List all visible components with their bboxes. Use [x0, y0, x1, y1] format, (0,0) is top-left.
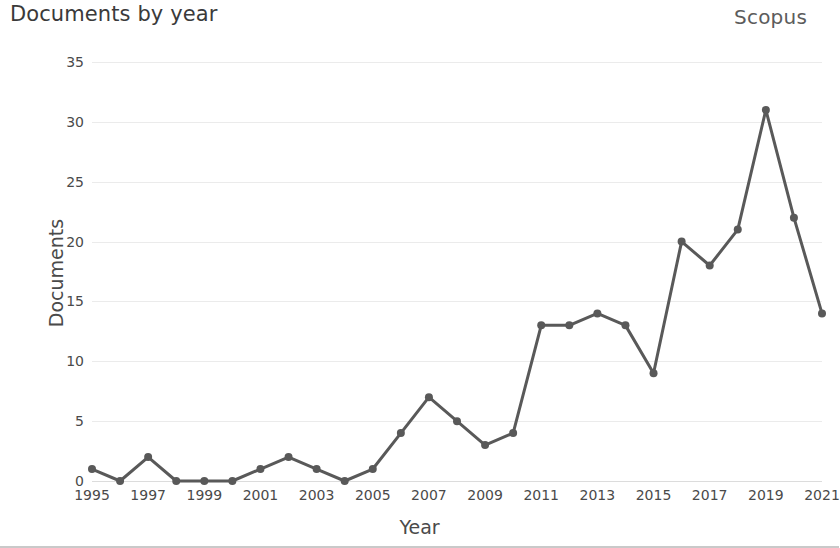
data-point-marker[interactable] — [425, 393, 433, 401]
data-point-marker[interactable] — [397, 429, 405, 437]
x-tick-label: 2021 — [804, 487, 840, 503]
data-point-marker[interactable] — [621, 321, 629, 329]
data-point-marker[interactable] — [678, 238, 686, 246]
y-tick-label: 15 — [66, 293, 84, 309]
data-point-marker[interactable] — [509, 429, 517, 437]
data-point-marker[interactable] — [593, 309, 601, 317]
data-point-marker[interactable] — [369, 465, 377, 473]
documents-line-series — [92, 62, 822, 481]
page-title: Documents by year — [10, 2, 217, 26]
data-point-marker[interactable] — [88, 465, 96, 473]
x-tick-label: 1997 — [130, 487, 166, 503]
data-point-marker[interactable] — [790, 214, 798, 222]
data-point-marker[interactable] — [481, 441, 489, 449]
x-tick-label: 2011 — [523, 487, 559, 503]
data-point-marker[interactable] — [762, 106, 770, 114]
data-point-marker[interactable] — [313, 465, 321, 473]
series-line — [92, 110, 822, 481]
x-tick-label: 1995 — [74, 487, 110, 503]
y-tick-label: 10 — [66, 353, 84, 369]
y-tick-label: 20 — [66, 234, 84, 250]
scopus-brand-label: Scopus — [734, 5, 807, 29]
y-tick-label: 35 — [66, 54, 84, 70]
x-axis-tick-labels: 1995199719992001200320052007200920112013… — [92, 487, 822, 511]
data-point-marker[interactable] — [453, 417, 461, 425]
data-point-marker[interactable] — [200, 477, 208, 485]
plot-area — [92, 62, 822, 481]
data-point-marker[interactable] — [565, 321, 573, 329]
data-point-marker[interactable] — [818, 309, 826, 317]
data-point-marker[interactable] — [285, 453, 293, 461]
y-tick-label: 5 — [75, 413, 84, 429]
x-tick-label: 1999 — [186, 487, 222, 503]
x-tick-label: 2005 — [355, 487, 391, 503]
x-tick-label: 2007 — [411, 487, 447, 503]
data-point-marker[interactable] — [228, 477, 236, 485]
y-axis-tick-labels: 05101520253035 — [52, 62, 84, 481]
x-tick-label: 2015 — [636, 487, 672, 503]
data-point-marker[interactable] — [734, 226, 742, 234]
x-axis-title: Year — [0, 516, 839, 538]
x-tick-label: 2017 — [692, 487, 728, 503]
x-tick-label: 2003 — [299, 487, 335, 503]
data-point-marker[interactable] — [116, 477, 124, 485]
data-point-marker[interactable] — [650, 369, 658, 377]
data-point-marker[interactable] — [256, 465, 264, 473]
data-point-marker[interactable] — [706, 262, 714, 270]
data-point-marker[interactable] — [537, 321, 545, 329]
x-tick-label: 2019 — [748, 487, 784, 503]
x-tick-label: 2009 — [467, 487, 503, 503]
x-tick-label: 2013 — [580, 487, 616, 503]
data-point-marker[interactable] — [144, 453, 152, 461]
y-tick-label: 25 — [66, 174, 84, 190]
x-tick-label: 2001 — [243, 487, 279, 503]
y-tick-label: 30 — [66, 114, 84, 130]
data-point-marker[interactable] — [341, 477, 349, 485]
data-point-marker[interactable] — [172, 477, 180, 485]
